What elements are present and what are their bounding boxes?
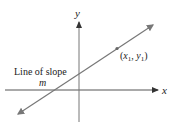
line-of-slope-label: Line of slope [14,66,67,77]
x-axis-label: x [161,84,167,96]
slope-diagram: y x Line of slope m (x1, y1) [0,0,182,128]
y-axis-label: y [74,7,80,19]
point-label: (x1, y1) [120,50,148,63]
slope-m-label: m [39,77,46,88]
point-x1-y1 [115,47,118,50]
slope-line [85,25,153,70]
